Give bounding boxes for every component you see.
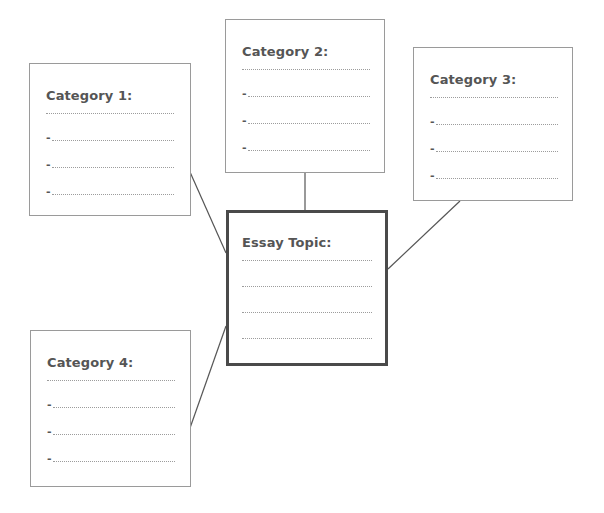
bullet-dash: - <box>430 117 435 127</box>
category-3-box: Category 3: --- <box>413 47 573 201</box>
bullet-writing-line[interactable] <box>248 96 370 97</box>
bullet-writing-line[interactable] <box>248 150 370 151</box>
category-3-title: Category 3: <box>430 72 516 87</box>
writing-line[interactable] <box>242 312 372 313</box>
bullet-dash: - <box>47 454 52 464</box>
bullet-writing-line[interactable] <box>436 151 558 152</box>
writing-line[interactable] <box>430 97 558 98</box>
category-4-box: Category 4: --- <box>30 330 191 487</box>
writing-line[interactable] <box>242 286 372 287</box>
bullet-writing-line[interactable] <box>436 124 558 125</box>
essay-topic-box: Essay Topic: <box>226 210 388 366</box>
bullet-dash: - <box>242 116 247 126</box>
category-1-title: Category 1: <box>46 88 132 103</box>
bullet-dash: - <box>242 89 247 99</box>
bullet-writing-line[interactable] <box>52 194 174 195</box>
bullet-writing-line[interactable] <box>53 461 175 462</box>
bullet-writing-line[interactable] <box>436 178 558 179</box>
writing-line[interactable] <box>242 338 372 339</box>
bullet-writing-line[interactable] <box>248 123 370 124</box>
bullet-dash: - <box>46 133 51 143</box>
category-1-box: Category 1: --- <box>29 63 191 216</box>
category-2-box: Category 2: --- <box>225 19 385 173</box>
bullet-dash: - <box>47 427 52 437</box>
bullet-writing-line[interactable] <box>52 167 174 168</box>
connector-cat4-topic <box>190 326 226 428</box>
essay-topic-title: Essay Topic: <box>242 235 332 250</box>
bullet-dash: - <box>46 187 51 197</box>
writing-line[interactable] <box>46 113 174 114</box>
bullet-dash: - <box>430 144 435 154</box>
category-2-title: Category 2: <box>242 44 328 59</box>
writing-line[interactable] <box>242 69 370 70</box>
bullet-writing-line[interactable] <box>53 407 175 408</box>
writing-line[interactable] <box>242 260 372 261</box>
connector-cat3-topic <box>388 201 460 269</box>
category-4-title: Category 4: <box>47 355 133 370</box>
bullet-writing-line[interactable] <box>52 140 174 141</box>
writing-line[interactable] <box>47 380 175 381</box>
bullet-writing-line[interactable] <box>53 434 175 435</box>
bullet-dash: - <box>46 160 51 170</box>
bullet-dash: - <box>430 171 435 181</box>
bullet-dash: - <box>242 143 247 153</box>
bullet-dash: - <box>47 400 52 410</box>
connector-cat1-topic <box>190 172 226 253</box>
